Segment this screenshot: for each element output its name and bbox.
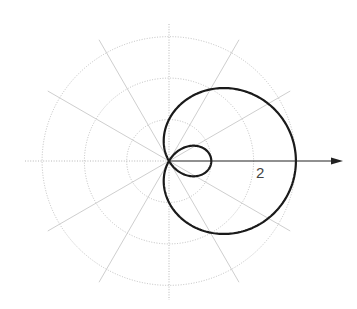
arrowhead-icon (331, 158, 343, 165)
grid-spoke (48, 161, 169, 231)
grid-spoke (169, 161, 239, 282)
grid-spoke (48, 91, 169, 161)
grid-spoke (169, 91, 290, 161)
grid-spoke (169, 40, 239, 161)
grid-spoke (99, 161, 169, 282)
polar-axis-label: 2 (256, 164, 264, 181)
grid-spoke (169, 161, 290, 231)
grid-spoke (99, 40, 169, 161)
polar-plot: 2 (0, 0, 357, 309)
